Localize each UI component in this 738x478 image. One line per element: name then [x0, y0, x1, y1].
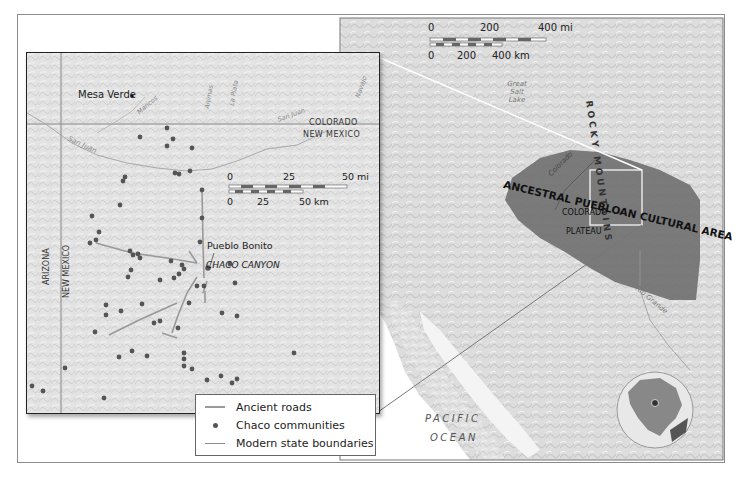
road-line-icon — [204, 406, 226, 408]
scale-mi-400: 400 mi — [538, 22, 573, 33]
new-mexico-side-label: NEW MEXICO — [62, 245, 71, 298]
colorado-plateau-label-1: COLORADO — [562, 208, 608, 217]
inset-scale-mi-0: 0 — [227, 171, 233, 182]
inset-scale-km-50: 50 km — [299, 196, 329, 207]
community-dot-icon — [204, 423, 226, 428]
legend-label: Ancient roads — [236, 401, 312, 414]
colorado-plateau-label-2: PLATEAU — [566, 227, 602, 236]
pacific-ocean-label-2: OCEAN — [430, 432, 478, 443]
legend-label: Modern state boundaries — [236, 437, 374, 450]
scale-km-200: 200 — [457, 50, 476, 61]
great-salt-lake-label: Great Salt Lake — [502, 80, 532, 104]
boundary-line-icon — [204, 443, 226, 444]
inset-scale-mi-50: 50 mi — [342, 171, 369, 182]
pueblo-bonito-label: Pueblo Bonito — [207, 240, 272, 251]
colorado-state-label: COLORADO — [309, 118, 358, 127]
legend-item-chaco-communities: Chaco communities — [204, 417, 345, 433]
scale-km-400: 400 km — [492, 50, 530, 61]
inset-scale-km-25: 25 — [257, 196, 269, 207]
pacific-ocean-label-1: PACIFIC — [425, 413, 481, 424]
legend-label: Chaco communities — [236, 419, 345, 432]
scale-km-0: 0 — [428, 50, 434, 61]
legend-item-ancient-roads: Ancient roads — [204, 399, 312, 415]
map-legend: Ancient roads Chaco communities Modern s… — [195, 394, 376, 456]
mesa-verde-label: Mesa Verde — [78, 89, 136, 100]
chaco-inset-map: Mesa Verde Mancos Animas La Plata San Ju… — [26, 52, 380, 414]
inset-scale-km-0: 0 — [227, 196, 233, 207]
legend-item-state-boundaries: Modern state boundaries — [204, 435, 374, 451]
scale-mi-0: 0 — [428, 22, 434, 33]
new-mexico-state-label: NEW MEXICO — [303, 130, 360, 139]
location-pin-icon — [652, 400, 659, 407]
inset-scale-mi-25: 25 — [283, 171, 295, 182]
locator-globe — [617, 372, 693, 448]
chaco-canyon-label: CHACO CANYON — [206, 260, 280, 270]
scale-mi-200: 200 — [480, 22, 499, 33]
arizona-state-label: ARIZONA — [42, 248, 51, 285]
